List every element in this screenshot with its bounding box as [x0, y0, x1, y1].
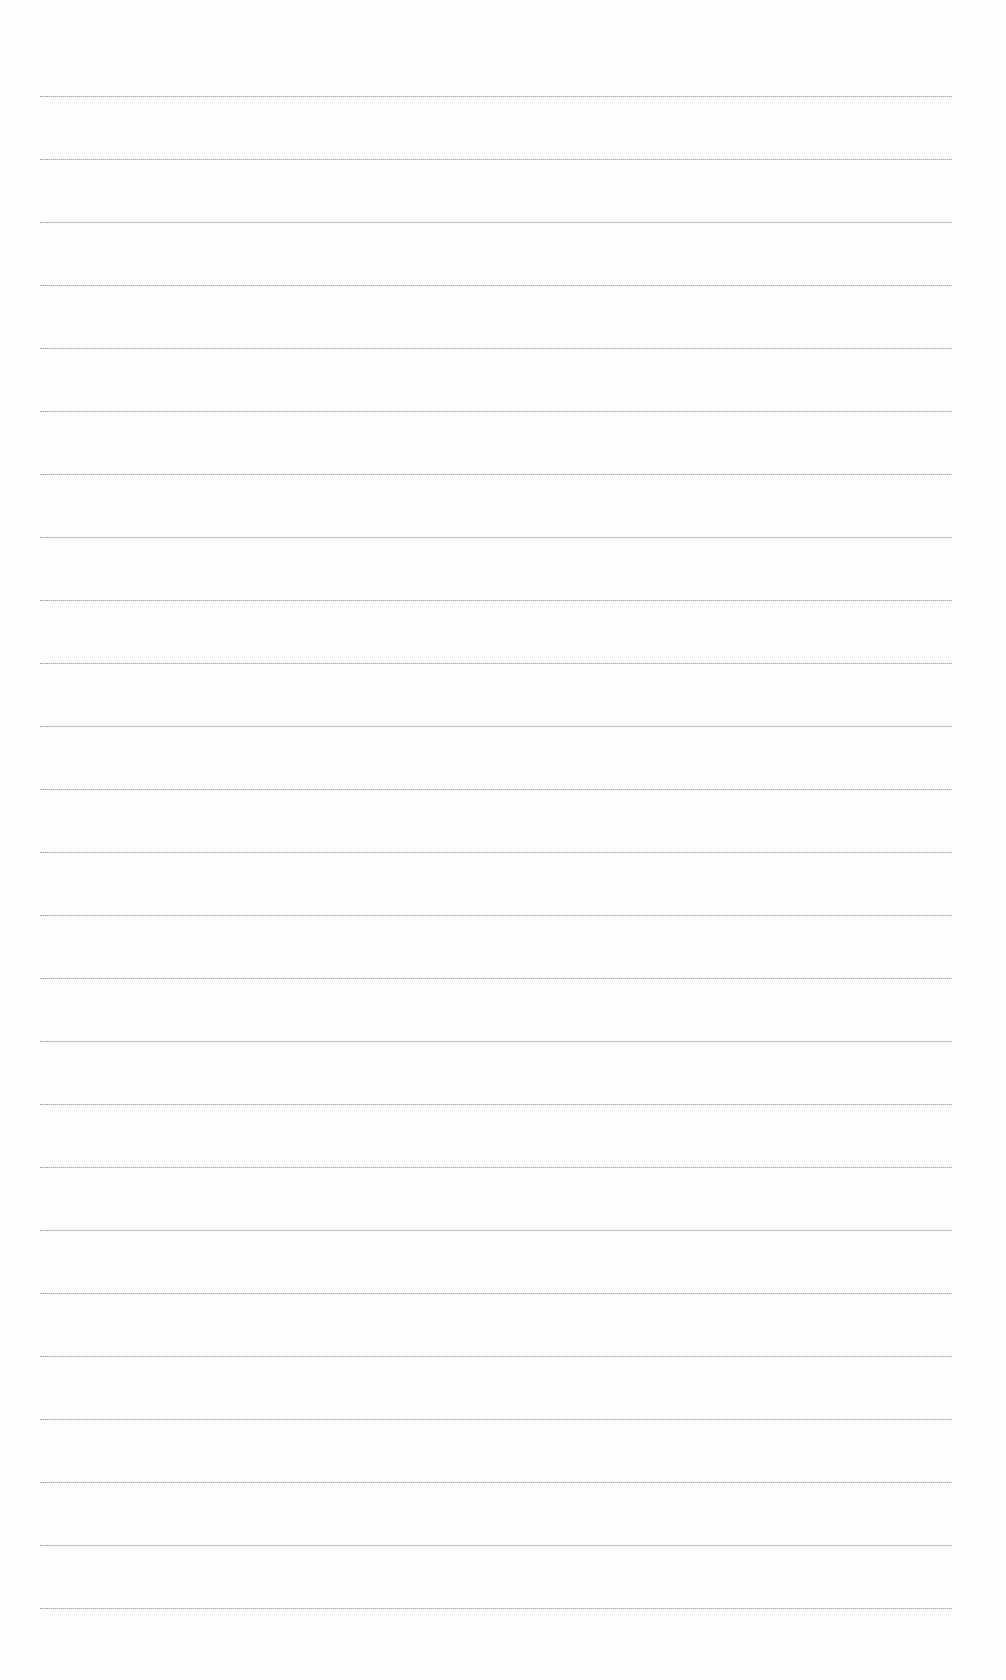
ruled-line — [40, 1419, 952, 1420]
ruled-line — [40, 1608, 952, 1609]
ruled-line — [40, 1482, 952, 1483]
ruled-line — [40, 411, 952, 412]
ruled-line — [40, 663, 952, 664]
ruled-line — [40, 1545, 952, 1546]
ruled-line — [40, 1356, 952, 1357]
ruled-line — [40, 1041, 952, 1042]
ruled-line — [40, 348, 952, 349]
ruled-line — [40, 285, 952, 286]
ruled-line — [40, 600, 952, 601]
ruled-line — [40, 978, 952, 979]
ruled-line — [40, 915, 952, 916]
ruled-line — [40, 726, 952, 727]
ruled-line — [40, 1167, 952, 1168]
ruled-line — [40, 1230, 952, 1231]
ruled-line — [40, 222, 952, 223]
ruled-line — [40, 96, 952, 97]
ruled-line — [40, 474, 952, 475]
lined-paper-page — [0, 0, 1006, 1680]
ruled-line — [40, 852, 952, 853]
ruled-line — [40, 537, 952, 538]
ruled-line — [40, 159, 952, 160]
ruled-line — [40, 1104, 952, 1105]
ruled-line — [40, 789, 952, 790]
ruled-line — [40, 1293, 952, 1294]
